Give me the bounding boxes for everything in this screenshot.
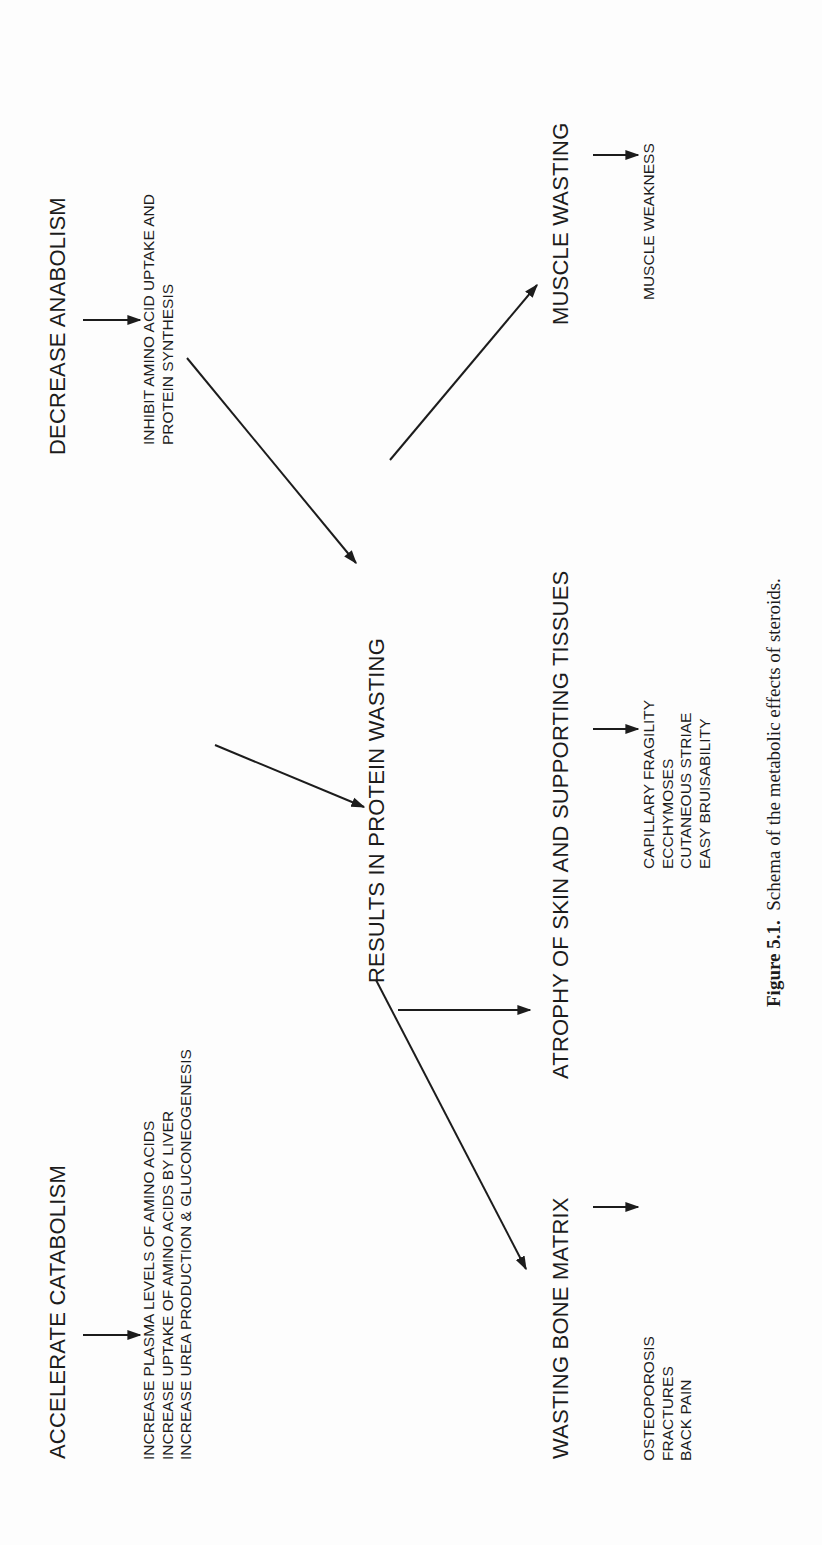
catabolism-effect-2: INCREASE UPTAKE OF AMINO ACIDS BY LIVER (159, 1049, 178, 1460)
node-anabolism-effects: INHIBIT AMINO ACID UPTAKE AND PROTEIN SY… (140, 194, 177, 445)
node-protein-wasting: RESULTS IN PROTEIN WASTING (366, 638, 388, 983)
catabolism-effect-3: INCREASE UREA PRODUCTION & GLUCONEOGENES… (177, 1049, 196, 1460)
node-muscle-wasting: MUSCLE WASTING (550, 123, 572, 325)
arrow-protein-wasting-to-muscle-wasting (390, 285, 537, 460)
muscle-effect-1: MUSCLE WEAKNESS (640, 143, 659, 300)
arrow-catabolism-effects-to-protein-wasting (215, 745, 364, 807)
figure-label: Figure 5.1. (763, 920, 784, 1007)
anabolism-effect-1: INHIBIT AMINO ACID UPTAKE AND (140, 194, 159, 445)
skin-effect-1: CAPILLARY FRAGILITY (640, 700, 659, 869)
node-muscle-effects: MUSCLE WEAKNESS (640, 143, 659, 300)
node-bone-effects: OSTEOPOROSIS FRACTURES BACK PAIN (640, 1336, 696, 1461)
figure-caption: Figure 5.1. Schema of the metabolic effe… (764, 578, 783, 1007)
figure-caption-text: Schema of the metabolic effects of stero… (763, 578, 784, 911)
catabolism-effect-1: INCREASE PLASMA LEVELS OF AMINO ACIDS (140, 1049, 159, 1460)
node-skin-effects: CAPILLARY FRAGILITY ECCHYMOSES CUTANEOUS… (640, 700, 714, 869)
node-accelerate-catabolism: ACCELERATE CATABOLISM (47, 1165, 69, 1459)
node-wasting-bone-matrix: WASTING BONE MATRIX (550, 1197, 572, 1459)
diagram-canvas: ACCELERATE CATABOLISM INCREASE PLASMA LE… (0, 0, 822, 1545)
node-atrophy-skin: ATROPHY OF SKIN AND SUPPORTING TISSUES (550, 571, 572, 1079)
arrow-protein-wasting-to-bone-matrix (376, 980, 526, 1269)
bone-effect-1: OSTEOPOROSIS (640, 1336, 659, 1461)
arrow-anabolism-effects-to-protein-wasting (187, 358, 356, 563)
skin-effect-4: EASY BRUISABILITY (696, 700, 715, 869)
bone-effect-3: BACK PAIN (677, 1336, 696, 1461)
node-catabolism-effects: INCREASE PLASMA LEVELS OF AMINO ACIDS IN… (140, 1049, 196, 1460)
node-decrease-anabolism: DECREASE ANABOLISM (47, 197, 69, 455)
anabolism-effect-2: PROTEIN SYNTHESIS (159, 194, 178, 445)
skin-effect-2: ECCHYMOSES (659, 700, 678, 869)
skin-effect-3: CUTANEOUS STRIAE (677, 700, 696, 869)
bone-effect-2: FRACTURES (659, 1336, 678, 1461)
